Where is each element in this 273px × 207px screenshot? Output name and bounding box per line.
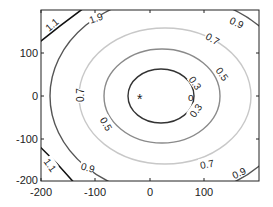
contour-labels: 1.1 1.9 0.9 0.7 0.5 0.3 0.3 0.7 0.5 0.9 … — [42, 10, 248, 181]
contour-chart: 1.1 1.9 0.9 0.7 0.5 0.3 0.3 0.7 0.5 0.9 … — [0, 0, 273, 207]
contour-label: 1.1 — [43, 16, 61, 34]
y-tick-label: -200 — [16, 174, 38, 186]
x-tick-label: -200 — [30, 186, 52, 198]
asterisk-marker: * — [137, 91, 143, 107]
y-tick-label: 0 — [32, 90, 38, 102]
contour-label: 0.5 — [98, 115, 115, 133]
x-tick-label: -100 — [84, 186, 106, 198]
y-tick-label: 100 — [20, 47, 38, 59]
x-tick-label: 0 — [147, 186, 153, 198]
contour-label: 0.7 — [204, 31, 222, 48]
contour-label: 1.1 — [42, 156, 59, 174]
y-tick-label: -100 — [16, 133, 38, 145]
contour-lines — [30, 0, 273, 196]
x-tick-label: 100 — [195, 186, 213, 198]
contour-label: 0.3 — [187, 74, 204, 92]
contour-label: 0.9 — [228, 15, 246, 31]
contour-label: 0.7 — [75, 88, 86, 102]
contour-label: 0.3 — [187, 101, 204, 119]
contour-1.1-bottom-left — [38, 145, 80, 190]
contour-0.5 — [104, 49, 220, 143]
y-axis — [41, 53, 259, 139]
circle-marker: o — [188, 92, 194, 103]
contour-label: 1.9 — [88, 10, 105, 25]
contour-label: 0.9 — [230, 165, 248, 181]
contour-label: 0.7 — [199, 158, 215, 171]
